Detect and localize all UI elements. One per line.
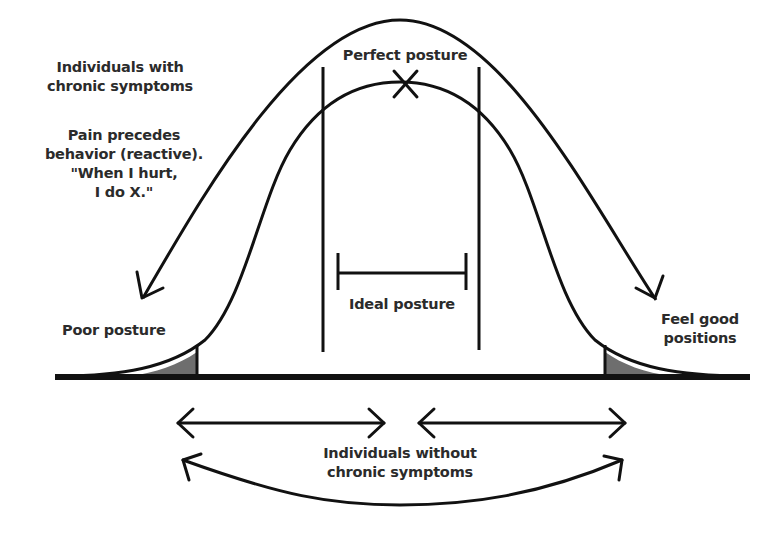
ideal-posture-bracket: [338, 253, 466, 290]
right-arc-arrowhead-icon: [636, 276, 663, 298]
feel-good-line-1: Feel good: [645, 310, 755, 329]
feel-good-line-2: positions: [645, 329, 755, 348]
perfect-posture-label: Perfect posture: [335, 46, 475, 65]
poor-posture-label: Poor posture: [62, 321, 186, 340]
reactive-note-line-2: behavior (reactive).: [34, 145, 214, 164]
chronic-group-line-2: chronic symptoms: [40, 77, 200, 96]
posture-diagram: Individuals with chronic symptoms Pain p…: [0, 0, 782, 533]
non-chronic-line-1: Individuals without: [300, 444, 500, 463]
reactive-note-line-3: "When I hurt,: [34, 164, 214, 183]
chronic-group-label: Individuals with chronic symptoms: [40, 58, 200, 96]
right-double-arrow: [419, 409, 625, 437]
non-chronic-line-2: chronic symptoms: [300, 463, 500, 482]
non-chronic-group-label: Individuals without chronic symptoms: [300, 444, 500, 482]
left-double-arrow: [178, 409, 384, 437]
reactive-note-line-4: I do X.": [34, 183, 214, 202]
reactive-note-label: Pain precedes behavior (reactive). "When…: [34, 126, 214, 202]
chronic-group-line-1: Individuals with: [40, 58, 200, 77]
feel-good-label: Feel good positions: [645, 310, 755, 348]
reactive-note-line-1: Pain precedes: [34, 126, 214, 145]
ideal-posture-label: Ideal posture: [340, 295, 464, 314]
left-tail-shade: [130, 352, 197, 376]
